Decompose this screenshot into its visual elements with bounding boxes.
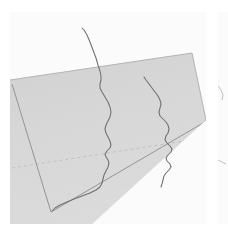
adjacent-panel-canvas [218,12,228,224]
adjacent-panel-peek[interactable] [218,12,228,224]
perspective-plot-canvas [10,12,206,224]
main-perspective-panel[interactable] [10,12,206,224]
peek-panel-background [218,12,228,224]
figure-root [0,0,228,233]
